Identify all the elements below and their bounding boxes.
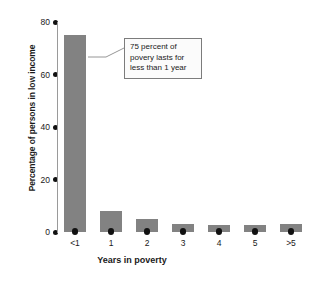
x-tick-marker [252, 228, 259, 235]
x-tick-label: 2 [127, 238, 167, 249]
y-tick-label: 80 [20, 17, 50, 27]
x-tick-marker [108, 228, 115, 235]
y-tick-label: 60 [20, 70, 50, 80]
annotation-callout: 75 percent of povery lasts for less than… [124, 38, 202, 79]
x-tick-label: >5 [271, 238, 311, 249]
y-axis-title: Percentage of persons in low income [27, 13, 37, 223]
x-tick-label: 5 [235, 238, 275, 249]
bar [64, 35, 86, 232]
x-tick-label: 3 [163, 238, 203, 249]
y-tick-label: 20 [20, 175, 50, 185]
x-axis-title: Years in poverty [57, 255, 207, 265]
x-tick-label: <1 [55, 238, 95, 249]
annotation-line-3: less than 1 year [130, 63, 197, 74]
x-tick-label: 1 [91, 238, 131, 249]
bar-chart: Percentage of persons in low income 0204… [0, 0, 315, 283]
x-tick-label: 4 [199, 238, 239, 249]
x-tick-marker [288, 228, 295, 235]
y-tick-label: 0 [20, 227, 50, 237]
y-tick-label: 40 [20, 122, 50, 132]
annotation-line-1: 75 percent of [130, 42, 197, 53]
x-tick-marker [216, 228, 223, 235]
x-tick-marker [72, 228, 79, 235]
x-tick-marker [180, 228, 187, 235]
annotation-line-2: povery lasts for [130, 53, 197, 64]
x-tick-marker [144, 228, 151, 235]
